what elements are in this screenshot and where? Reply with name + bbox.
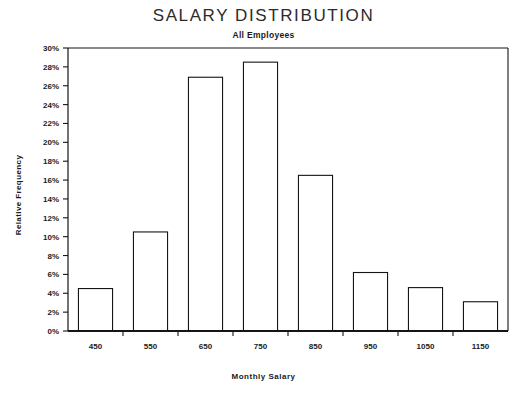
plot-area: 0%2%4%6%8%10%12%14%16%18%20%22%24%26%28%… [0,0,527,398]
bar-750 [243,62,277,331]
y-tick-label: 20% [43,138,59,147]
y-tick-labels: 0%2%4%6%8%10%12%14%16%18%20%22%24%26%28%… [43,44,59,336]
y-tick-label: 24% [43,101,59,110]
x-tick-label: 850 [309,342,323,351]
chart-figure: SALARY DISTRIBUTION All Employees Relati… [0,0,527,398]
bar-outline [463,302,497,331]
y-tick-label: 4% [47,289,59,298]
bar-850 [298,175,332,331]
bar-outline [408,288,442,331]
bar-550 [133,232,167,331]
bar-1150 [463,302,497,331]
bars-group [78,62,497,331]
bar-950 [353,273,387,331]
y-tick-label: 26% [43,82,59,91]
bar-outline [188,77,222,331]
bar-outline [298,175,332,331]
y-tick-label: 2% [47,308,59,317]
bar-650 [188,77,222,331]
y-tick-label: 30% [43,44,59,53]
y-tick-label: 12% [43,214,59,223]
y-tick-label: 18% [43,157,59,166]
bar-outline [78,289,112,331]
y-tick-label: 10% [43,233,59,242]
y-tick-label: 6% [47,270,59,279]
x-tick-label: 750 [254,342,268,351]
x-tick-label: 650 [199,342,213,351]
y-tick-label: 28% [43,63,59,72]
x-tick-label: 1150 [472,342,490,351]
x-tick-label: 1050 [417,342,435,351]
bar-1050 [408,288,442,331]
y-tick-label: 16% [43,176,59,185]
x-tick-label: 950 [364,342,378,351]
y-tick-label: 0% [47,327,59,336]
x-tick-label: 550 [144,342,158,351]
bar-outline [133,232,167,331]
bar-450 [78,289,112,331]
bar-outline [243,62,277,331]
y-tick-label: 22% [43,119,59,128]
x-tick-label: 450 [89,342,103,351]
bar-outline [353,273,387,331]
y-tick-label: 8% [47,252,59,261]
x-tick-labels: 45055065075085095010501150 [89,342,490,351]
y-tick-label: 14% [43,195,59,204]
